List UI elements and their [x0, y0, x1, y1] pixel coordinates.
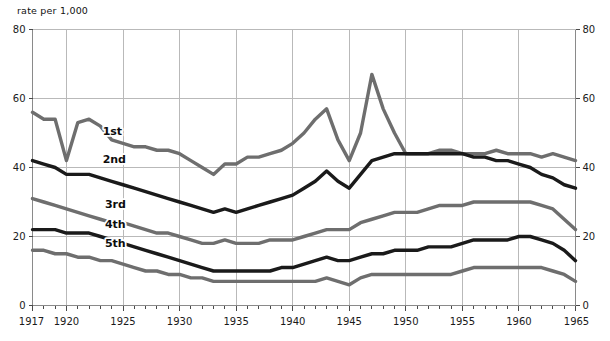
y-axis-left-label-60: 60 [13, 93, 26, 104]
y-axis-right-label-80: 80 [583, 24, 596, 35]
series-line-5th [33, 250, 576, 284]
y-axis-right-label-60: 60 [583, 93, 596, 104]
y-axis-left-label-20: 20 [13, 231, 26, 242]
x-axis-label-1965: 1965 [564, 316, 589, 327]
x-axis-label-1945: 1945 [337, 316, 362, 327]
series-label-4th: 4th [105, 218, 126, 231]
x-axis-label-1925: 1925 [110, 316, 135, 327]
y-axis-right-label-0: 0 [583, 300, 589, 311]
x-axis-label-1960: 1960 [506, 316, 531, 327]
line-chart-svg: 0020204040606080801917192019251930193519… [0, 0, 610, 341]
x-axis-label-1955: 1955 [450, 316, 475, 327]
x-axis-label-1930: 1930 [167, 316, 192, 327]
y-axis-left-label-0: 0 [19, 300, 25, 311]
chart-container: rate per 1,000 0020204040606080801917192… [0, 0, 610, 341]
x-axis-label-1935: 1935 [223, 316, 248, 327]
y-axis-left-label-80: 80 [13, 24, 26, 35]
y-axis-right-label-20: 20 [583, 231, 596, 242]
x-axis-label-1950: 1950 [393, 316, 418, 327]
x-axis-label-1920: 1920 [54, 316, 79, 327]
y-axis-right-label-40: 40 [583, 162, 596, 173]
series-label-2nd: 2nd [103, 153, 126, 166]
series-label-1st: 1st [103, 125, 122, 138]
series-label-3rd: 3rd [105, 198, 126, 211]
x-axis-label-1940: 1940 [280, 316, 305, 327]
x-axis-label-1917: 1917 [19, 316, 44, 327]
y-axis-left-label-40: 40 [13, 162, 26, 173]
series-label-5th: 5th [105, 237, 126, 250]
